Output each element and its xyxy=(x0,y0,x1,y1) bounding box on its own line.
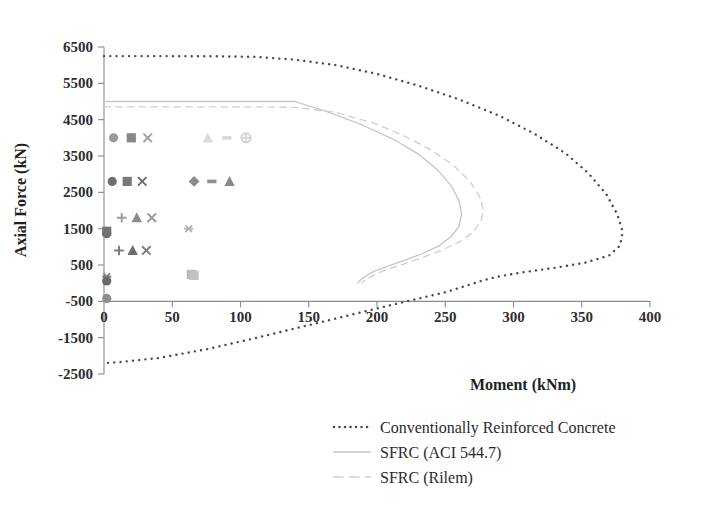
x-tick-label: 200 xyxy=(366,309,389,325)
data-point-dash xyxy=(207,180,216,184)
x-tick-label: 250 xyxy=(434,309,457,325)
y-tick-label: -2500 xyxy=(58,366,93,382)
chart-figure: -2500-1500-50050015002500350045005500650… xyxy=(0,0,725,511)
x-tick-label: 400 xyxy=(639,309,662,325)
plot-background xyxy=(0,0,725,511)
data-point-dash xyxy=(222,136,231,140)
y-tick-label: -1500 xyxy=(58,330,93,346)
x-tick-label: 150 xyxy=(298,309,321,325)
data-point-circle xyxy=(109,133,118,142)
x-tick-label: 50 xyxy=(165,309,180,325)
y-tick-label: -500 xyxy=(66,293,94,309)
x-tick-label: 300 xyxy=(502,309,525,325)
y-tick-label: 5500 xyxy=(63,75,93,91)
legend-label: SFRC (Rilem) xyxy=(380,469,473,487)
x-tick-label: 350 xyxy=(571,309,594,325)
data-point-square xyxy=(127,133,136,142)
data-point-square xyxy=(123,177,132,186)
x-tick-label: 0 xyxy=(100,309,108,325)
y-tick-label: 2500 xyxy=(63,184,93,200)
y-tick-label: 6500 xyxy=(63,39,93,55)
y-tick-label: 3500 xyxy=(63,148,93,164)
data-point-circle xyxy=(102,229,111,238)
x-tick-label: 100 xyxy=(229,309,252,325)
legend-label: Conventionally Reinforced Concrete xyxy=(380,419,615,437)
interaction-diagram-plot: -2500-1500-50050015002500350045005500650… xyxy=(0,0,725,511)
y-tick-label: 500 xyxy=(71,257,94,273)
y-axis-title: Axial Force (kN) xyxy=(12,143,30,257)
data-point-circle xyxy=(102,276,111,285)
x-axis-title: Moment (kNm) xyxy=(470,376,576,394)
data-point-square xyxy=(189,271,198,280)
data-point-circle xyxy=(108,177,117,186)
y-tick-label: 1500 xyxy=(63,221,93,237)
data-point-circle xyxy=(102,294,111,303)
legend-label: SFRC (ACI 544.7) xyxy=(380,444,501,462)
y-tick-label: 4500 xyxy=(63,112,93,128)
